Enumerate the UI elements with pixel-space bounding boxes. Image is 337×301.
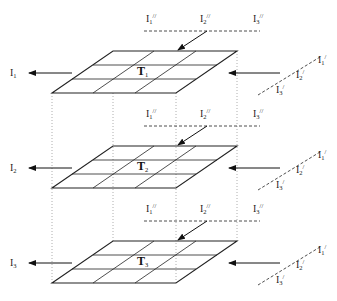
svg-text:I2//: I2// <box>200 107 210 120</box>
layer-label-t2: T2 <box>137 159 148 173</box>
svg-text:I2/: I2/ <box>296 258 305 271</box>
top-input-arrow <box>178 31 207 50</box>
layer-t3: I1// I2// I3// T3 I3 I1/ I2/ I3/ <box>10 202 327 286</box>
layer-label-t3: T3 <box>137 254 148 268</box>
svg-text:I1/: I1/ <box>318 243 327 256</box>
side-input-label-1c: I3/ <box>276 83 285 96</box>
output-label-2: I2 <box>10 162 17 174</box>
top-input-label-2: I2// <box>200 12 210 25</box>
layer-t2: I1// I2// I3// T2 I2 I1/ I2/ I3/ <box>10 107 327 191</box>
top-input-label-3: I3// <box>253 12 263 25</box>
top-input-label-1: I1// <box>146 12 156 25</box>
svg-text:I3//: I3// <box>253 107 263 120</box>
output-label-1: I1 <box>10 67 17 79</box>
side-input-label-1a: I1/ <box>318 53 327 66</box>
svg-text:I3/: I3/ <box>276 273 285 286</box>
side-input-line-1 <box>258 57 320 95</box>
layer-t1: I1// I2// I3// T1 I1 I1/ I2/ I3/ <box>10 12 327 96</box>
svg-text:I2/: I2/ <box>296 163 305 176</box>
svg-text:I2//: I2// <box>200 202 210 215</box>
svg-text:I1//: I1// <box>146 107 156 120</box>
top-input-line: I1// I2// I3// <box>144 12 263 50</box>
svg-text:I1//: I1// <box>146 202 156 215</box>
svg-text:I3//: I3// <box>253 202 263 215</box>
output-label-3: I3 <box>10 257 17 269</box>
side-input-label-1b: I2/ <box>296 68 305 81</box>
diagram-canvas: I1// I2// I3// T1 I1 I1/ I2/ I3/ I1// I2… <box>0 0 337 301</box>
svg-text:I1/: I1/ <box>318 148 327 161</box>
layer-label-t1: T1 <box>137 64 148 78</box>
svg-text:I3/: I3/ <box>276 178 285 191</box>
